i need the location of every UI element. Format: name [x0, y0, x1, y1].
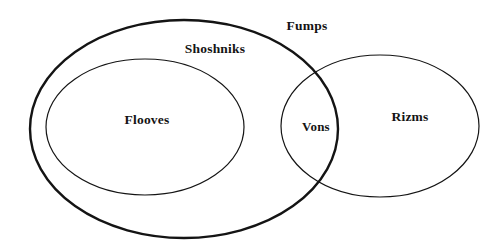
set-label-fumps: Fumps: [287, 18, 328, 33]
set-label-shoshniks: Shoshniks: [185, 41, 245, 56]
euler-diagram-svg: Fumps Shoshniks Rizms Flooves Vons: [0, 0, 503, 251]
euler-diagram-canvas: Fumps Shoshniks Rizms Flooves Vons: [0, 0, 503, 251]
set-label-rizms: Rizms: [392, 109, 429, 124]
set-label-vons: Vons: [302, 119, 330, 134]
set-label-flooves: Flooves: [125, 112, 170, 127]
diagram-background: [0, 0, 503, 251]
